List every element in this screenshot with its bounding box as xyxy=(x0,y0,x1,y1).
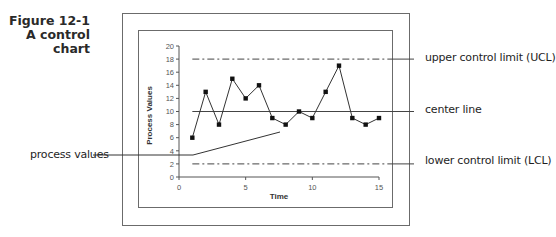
callout-process-values: process values xyxy=(30,148,109,161)
callout-lcl: lower control limit (LCL) xyxy=(425,154,551,167)
data-point-marker xyxy=(337,63,341,67)
data-point-marker xyxy=(217,122,221,126)
data-point-marker xyxy=(310,116,314,120)
x-axis-title: Time xyxy=(270,192,289,201)
y-tick-label: 16 xyxy=(166,68,174,77)
process-values-line xyxy=(192,66,379,138)
x-tick-label: 15 xyxy=(375,183,383,192)
y-tick-label: 14 xyxy=(166,81,174,90)
data-point-marker xyxy=(257,83,261,87)
y-tick-label: 20 xyxy=(166,42,174,51)
data-series xyxy=(190,63,381,139)
y-tick-label: 6 xyxy=(170,133,174,142)
callout-leaders xyxy=(93,132,280,155)
chart-axes: 02468101214161820051015TimeProcess Value… xyxy=(145,42,383,201)
data-point-marker xyxy=(297,109,301,113)
data-point-marker xyxy=(283,122,287,126)
y-axis-title: Process Values xyxy=(145,86,154,145)
data-point-marker xyxy=(323,90,327,94)
reference-lines xyxy=(192,59,414,164)
y-tick-label: 0 xyxy=(170,173,174,182)
y-tick-label: 4 xyxy=(170,147,174,156)
y-tick-label: 2 xyxy=(170,160,174,169)
x-tick-label: 5 xyxy=(244,183,248,192)
data-point-marker xyxy=(270,116,274,120)
data-point-marker xyxy=(243,96,247,100)
data-point-marker xyxy=(203,90,207,94)
callout-ucl: upper control limit (UCL) xyxy=(425,51,556,64)
process-values-leader xyxy=(93,132,280,155)
data-point-marker xyxy=(377,116,381,120)
data-point-marker xyxy=(190,136,194,140)
data-point-marker xyxy=(350,116,354,120)
x-tick-label: 10 xyxy=(308,183,316,192)
data-point-marker xyxy=(230,77,234,81)
y-tick-label: 12 xyxy=(166,94,174,103)
callout-center-line: center line xyxy=(425,103,482,116)
x-tick-label: 0 xyxy=(177,183,181,192)
y-tick-label: 8 xyxy=(170,120,174,129)
y-tick-label: 10 xyxy=(166,107,174,116)
y-tick-label: 18 xyxy=(166,55,174,64)
data-point-marker xyxy=(363,122,367,126)
